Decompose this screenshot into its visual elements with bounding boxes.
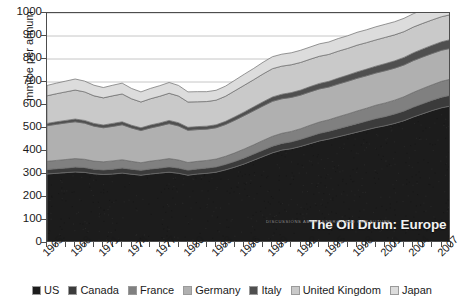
legend-item-germany[interactable]: Germany	[183, 284, 240, 296]
legend-swatch-icon	[249, 286, 258, 295]
legend-label: US	[44, 284, 59, 296]
x-tick-mark	[234, 242, 235, 247]
x-tick-mark	[93, 242, 94, 247]
x-tick-mark	[318, 242, 319, 247]
x-tick-mark	[375, 242, 376, 247]
x-tick-mark	[65, 242, 66, 247]
y-tick-label: 300	[6, 167, 42, 179]
plot-area: The Oil Drum: Europe	[46, 12, 450, 242]
x-tick-mark	[121, 242, 122, 247]
chart-legend: USCanadaFranceGermanyItalyUnited Kingdom…	[0, 284, 464, 296]
x-tick-mark	[347, 242, 348, 247]
y-tick-label: 1000	[6, 6, 42, 18]
x-tick-mark	[262, 242, 263, 247]
y-tick-label: 0	[6, 236, 42, 248]
y-tick-label: 100	[6, 213, 42, 225]
y-tick-label: 500	[6, 121, 42, 133]
x-tick-label: 1965	[40, 233, 65, 258]
legend-swatch-icon	[32, 286, 41, 295]
y-tick-label: 600	[6, 98, 42, 110]
legend-label: Japan	[402, 284, 432, 296]
legend-label: France	[140, 284, 174, 296]
x-tick-mark	[290, 242, 291, 247]
legend-item-canada[interactable]: Canada	[68, 284, 119, 296]
legend-item-united-kingdom[interactable]: United Kingdom	[291, 284, 381, 296]
y-tick-label: 400	[6, 144, 42, 156]
y-tick-label: 900	[6, 29, 42, 41]
x-tick-mark	[178, 242, 179, 247]
watermark-subtext: DISCUSSIONS ABOUT ENERGY AND OUR FUTURE	[266, 219, 391, 224]
legend-swatch-icon	[183, 286, 192, 295]
chart-container: mmtoe per annum 010020030040050060070080…	[0, 0, 464, 308]
x-tick-mark	[431, 242, 432, 247]
legend-swatch-icon	[128, 286, 137, 295]
x-tick-mark	[403, 242, 404, 247]
y-tick-label: 200	[6, 190, 42, 202]
stacked-area-svg	[47, 13, 450, 242]
legend-label: Canada	[80, 284, 119, 296]
legend-item-italy[interactable]: Italy	[249, 284, 281, 296]
legend-swatch-icon	[390, 286, 399, 295]
legend-label: Germany	[195, 284, 240, 296]
x-tick-mark	[206, 242, 207, 247]
legend-label: Italy	[261, 284, 281, 296]
legend-item-japan[interactable]: Japan	[390, 284, 432, 296]
legend-item-france[interactable]: France	[128, 284, 174, 296]
y-axis-tick-labels: 01002003004005006007008009001000	[2, 0, 42, 308]
legend-swatch-icon	[291, 286, 300, 295]
legend-swatch-icon	[68, 286, 77, 295]
y-tick-label: 800	[6, 52, 42, 64]
y-tick-label: 700	[6, 75, 42, 87]
x-tick-mark	[149, 242, 150, 247]
legend-label: United Kingdom	[303, 284, 381, 296]
legend-item-us[interactable]: US	[32, 284, 59, 296]
